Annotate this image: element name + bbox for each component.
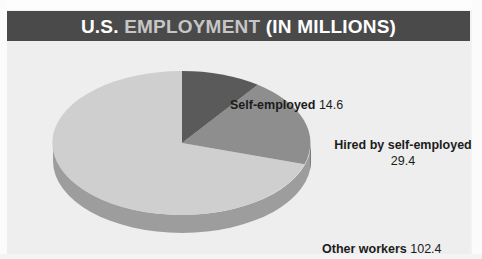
data-label-other-workers-name: Other workers bbox=[322, 242, 407, 256]
data-label-hired-value: 29.4 bbox=[323, 154, 482, 170]
chart-title-segment-1: U.S. bbox=[81, 16, 119, 37]
chart-figure: U.S. EMPLOYMENT (IN MILLIONS) Self-emplo… bbox=[0, 0, 482, 259]
data-label-self-employed-value: 14.6 bbox=[319, 98, 343, 112]
chart-title: U.S. EMPLOYMENT (IN MILLIONS) bbox=[81, 17, 396, 36]
pie-slice-side-hired bbox=[310, 143, 311, 170]
chart-title-segment-3: (IN MILLIONS) bbox=[266, 16, 396, 37]
chart-plot-area: Self-employed 14.6 Hired by self-employe… bbox=[7, 41, 470, 254]
data-label-self-employed: Self-employed 14.6 bbox=[230, 98, 343, 114]
chart-title-bar: U.S. EMPLOYMENT (IN MILLIONS) bbox=[7, 11, 470, 41]
chart-title-segment-2: EMPLOYMENT bbox=[124, 16, 260, 37]
frame-margin-right bbox=[472, 0, 482, 259]
frame-margin-top bbox=[0, 0, 482, 10]
data-label-hired-by-self-employed: Hired by self-employed29.4 bbox=[323, 138, 482, 169]
frame-margin-left bbox=[0, 0, 7, 259]
data-label-other-workers: Other workers 102.4 bbox=[322, 242, 442, 258]
data-label-other-workers-value: 102.4 bbox=[410, 242, 441, 256]
data-label-hired-name: Hired by self-employed bbox=[334, 138, 472, 152]
data-label-self-employed-name: Self-employed bbox=[230, 98, 315, 112]
